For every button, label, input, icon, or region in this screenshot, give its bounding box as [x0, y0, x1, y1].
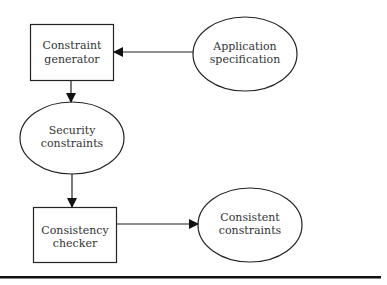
node-label: checker — [53, 237, 98, 250]
node-application-specification: Application specification — [193, 17, 297, 91]
node-security-constraints: Security constraints — [20, 102, 124, 174]
node-consistent-constraints: Consistent constraints — [198, 188, 302, 262]
node-label: Consistent — [220, 211, 280, 224]
node-label: Constraint — [42, 39, 102, 52]
node-label: Security — [49, 124, 96, 137]
bottom-rule — [0, 276, 381, 279]
node-label: constraints — [219, 224, 282, 237]
node-label: specification — [210, 53, 281, 66]
node-label: Consistency — [41, 224, 109, 237]
node-label: generator — [44, 53, 100, 66]
node-label: constraints — [41, 137, 104, 150]
node-label: Application — [212, 40, 276, 53]
flow-diagram: Constraint generator Application specifi… — [0, 0, 387, 285]
node-constraint-generator: Constraint generator — [31, 25, 114, 81]
node-consistency-checker: Consistency checker — [34, 208, 117, 263]
